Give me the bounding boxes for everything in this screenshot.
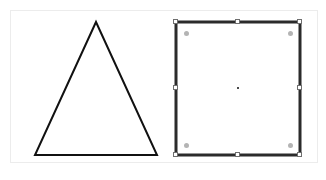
rotate-handle-top-right[interactable]	[288, 31, 293, 36]
resize-handle-top-left[interactable]	[173, 19, 178, 24]
rotate-handle-bottom-left[interactable]	[184, 143, 189, 148]
rotate-handle-top-left[interactable]	[184, 31, 189, 36]
app-root	[0, 0, 326, 180]
shape-triangle[interactable]	[35, 22, 157, 155]
resize-handle-middle-left[interactable]	[173, 85, 178, 90]
resize-handle-bottom-left[interactable]	[173, 152, 178, 157]
resize-handle-bottom-center[interactable]	[235, 152, 240, 157]
shapes-layer	[0, 0, 326, 180]
resize-handle-top-center[interactable]	[235, 19, 240, 24]
resize-handle-top-right[interactable]	[297, 19, 302, 24]
pivot-marker[interactable]	[236, 86, 240, 90]
resize-handle-bottom-right[interactable]	[297, 152, 302, 157]
resize-handle-middle-right[interactable]	[297, 85, 302, 90]
rotate-handle-bottom-right[interactable]	[288, 143, 293, 148]
